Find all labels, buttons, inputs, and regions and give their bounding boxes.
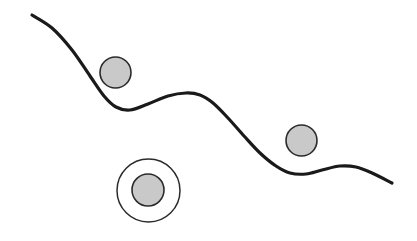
wavy-curve-with-circles-diagram <box>0 0 417 241</box>
diagram-canvas <box>0 0 417 241</box>
concentric-inner-circle <box>132 174 164 206</box>
background-rect <box>0 0 417 241</box>
filled-circle-upper-left <box>100 57 131 88</box>
filled-circle-right <box>286 125 317 156</box>
